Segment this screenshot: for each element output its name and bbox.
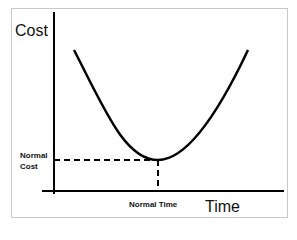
y-axis-label: Cost xyxy=(15,22,48,40)
normal-time-label: Normal Time xyxy=(129,200,177,209)
cost-curve xyxy=(74,50,248,160)
x-axis-label: Time xyxy=(205,198,240,216)
normal-cost-label: Normal Cost xyxy=(20,150,50,172)
